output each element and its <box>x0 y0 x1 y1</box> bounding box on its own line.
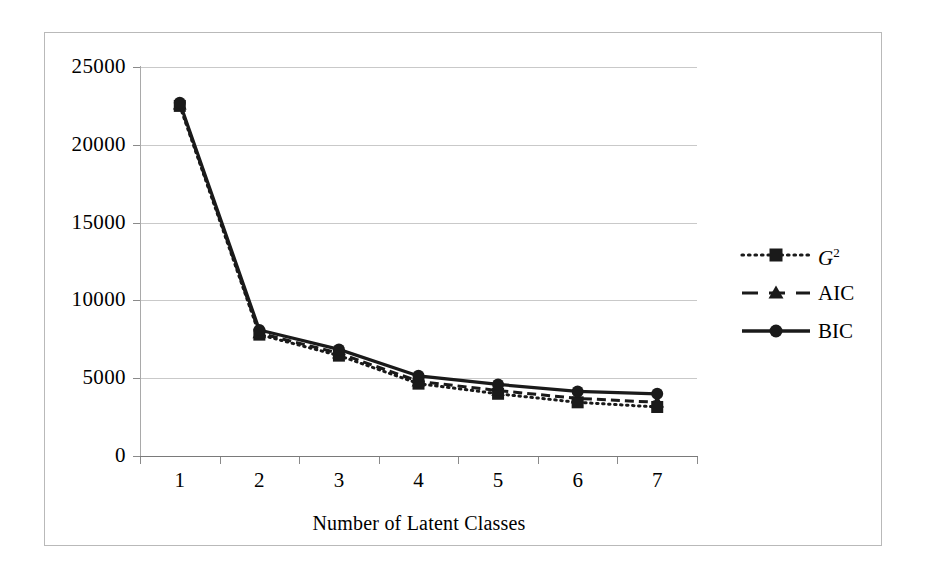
circle-marker <box>770 325 783 338</box>
series-BIC <box>174 97 663 400</box>
chart-figure: 0500010000150002000025000 1234567 Number… <box>0 0 925 577</box>
circle-marker <box>174 97 186 109</box>
circle-marker <box>492 378 504 390</box>
series-line <box>180 104 657 402</box>
legend-key-graphic <box>740 283 812 303</box>
legend-item-BIC[interactable]: BIC <box>740 312 870 350</box>
series-line <box>180 106 657 407</box>
series-G2 <box>174 100 663 413</box>
circle-marker <box>651 388 663 400</box>
legend-key-G2 <box>740 245 812 265</box>
circle-marker <box>333 343 345 355</box>
series-line <box>180 103 657 394</box>
legend-label-BIC: BIC <box>818 321 853 342</box>
legend-item-AIC[interactable]: AIC <box>740 274 870 312</box>
legend-item-G2[interactable]: G2 <box>740 236 870 274</box>
chart-legend: G2AICBIC <box>740 236 870 350</box>
square-marker <box>770 249 783 262</box>
legend-key-AIC <box>740 283 812 303</box>
circle-marker <box>253 324 265 336</box>
circle-marker <box>572 385 584 397</box>
legend-key-graphic <box>740 245 812 265</box>
legend-key-graphic <box>740 321 812 341</box>
legend-key-BIC <box>740 321 812 341</box>
legend-label-G2: G2 <box>818 242 840 269</box>
legend-label-AIC: AIC <box>818 283 854 304</box>
circle-marker <box>413 370 425 382</box>
series-AIC <box>173 97 664 407</box>
